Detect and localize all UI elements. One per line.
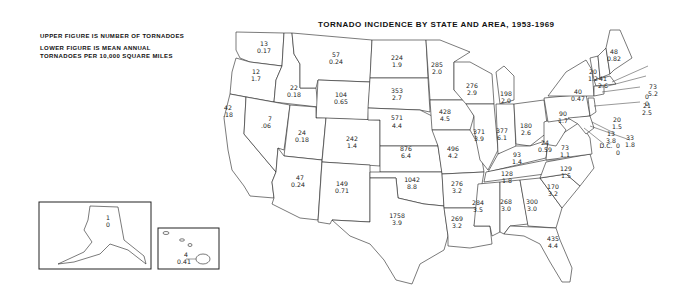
label-ky-count: 93	[513, 151, 521, 158]
label-mo-count: 496	[447, 145, 459, 152]
label-ca-count: 42	[224, 104, 232, 111]
label-mi-rate: 2.0	[501, 97, 511, 104]
label-in-count: 377	[496, 127, 508, 134]
label-il-rate: 3.9	[474, 135, 484, 142]
label-ok-rate: 8.8	[407, 183, 417, 190]
label-ca-rate: .18	[223, 111, 233, 118]
label-oh-count: 180	[520, 122, 532, 129]
label-ma-rate: 5.2	[648, 90, 658, 97]
label-md-count: 33	[626, 134, 634, 141]
label-dc-count: 0	[616, 142, 620, 149]
label-az-rate: 0.24	[291, 181, 305, 188]
label-mi-count: 198	[500, 90, 512, 97]
label-id-count: 22	[290, 84, 298, 91]
label-tx-count: 1758	[389, 212, 405, 219]
label-me-rate: 0.82	[607, 55, 621, 62]
label-hi-count: 4	[184, 251, 188, 258]
label-ia-count: 428	[439, 108, 451, 115]
label-mn-rate: 2.0	[432, 68, 442, 75]
label-me-count: 48	[610, 48, 618, 55]
label-co-rate: 1.4	[347, 142, 357, 149]
label-nm-count: 149	[336, 180, 348, 187]
label-sd-rate: 2.7	[392, 94, 402, 101]
label-nc-rate: 1.5	[561, 172, 571, 179]
label-sd-count: 353	[391, 87, 403, 94]
label-ga-rate: 3.0	[527, 205, 537, 212]
label-wi-count: 276	[466, 82, 478, 89]
label-wa-count: 13	[260, 40, 268, 47]
label-nv-count: 7	[268, 115, 272, 122]
label-ak-rate: 0	[106, 221, 110, 228]
label-fl-rate: 4.4	[548, 242, 558, 249]
label-az-count: 47	[296, 174, 304, 181]
state-fl	[504, 226, 572, 282]
label-co-count: 242	[346, 135, 358, 142]
label-ne-count: 571	[391, 114, 403, 121]
us-map: 13 0.17 12 1.7 42 .18 22 0.18 7 .06 57 0…	[0, 0, 676, 303]
label-ut-count: 24	[298, 129, 306, 136]
label-wy-rate: 0.65	[334, 98, 348, 105]
label-pa-count: 90	[559, 110, 567, 117]
label-wi-rate: 2.9	[467, 89, 477, 96]
label-ri-count: 0	[645, 93, 649, 100]
label-wy-count: 104	[335, 91, 347, 98]
label-ne-rate: 4.4	[392, 122, 402, 129]
label-oh-rate: 2.6	[521, 129, 531, 136]
label-id-rate: 0.18	[287, 91, 301, 98]
label-or-rate: 1.7	[251, 75, 261, 82]
label-vt-count: 20	[589, 68, 597, 75]
label-la-rate: 3.2	[452, 222, 462, 229]
label-ak-count: 1	[106, 214, 110, 221]
label-ma-count: 73	[649, 83, 657, 90]
label-fl-count: 435	[547, 235, 559, 242]
label-wa-rate: 0.17	[257, 47, 271, 54]
label-ny-rate: 0.47	[571, 95, 585, 102]
label-al-rate: 3.0	[501, 205, 511, 212]
label-mt-count: 57	[332, 51, 340, 58]
label-ms-rate: 3.5	[473, 206, 483, 213]
label-mn-count: 285	[431, 61, 443, 68]
label-ok-count: 1042	[404, 176, 420, 183]
label-nc-count: 129	[560, 165, 572, 172]
label-wv-rate: 0.59	[538, 146, 552, 153]
label-ks-rate: 6.4	[401, 152, 411, 159]
label-de-count: 13	[607, 130, 615, 137]
label-in-rate: 6.1	[497, 134, 507, 141]
label-al-count: 268	[500, 198, 512, 205]
label-dc-rate: 0	[616, 149, 620, 156]
label-tn-rate: 1.8	[502, 177, 512, 184]
label-ms-count: 284	[472, 199, 484, 206]
label-vt-rate: 1.2	[588, 75, 598, 82]
state-outlines	[224, 30, 632, 284]
label-sc-count: 170	[547, 183, 559, 190]
label-ky-rate: 1.4	[512, 158, 522, 165]
label-sc-rate: 3.2	[548, 190, 558, 197]
label-nd-count: 224	[391, 54, 403, 61]
label-nd-rate: 1.9	[392, 61, 402, 68]
label-wv-count: 24	[541, 139, 549, 146]
label-dc-name: D.C.	[599, 142, 612, 149]
label-md-rate: 1.8	[625, 141, 635, 148]
label-ut-rate: 0.18	[295, 136, 309, 143]
label-hi-rate: 0.41	[177, 258, 191, 265]
label-mt-rate: 0.24	[329, 58, 343, 65]
label-ar-rate: 3.2	[452, 187, 462, 194]
label-il-count: 371	[473, 128, 485, 135]
label-tx-rate: 3.9	[392, 219, 402, 226]
label-ar-count: 276	[451, 180, 463, 187]
label-nj-count: 20	[613, 116, 621, 123]
label-ct-count: 21	[643, 102, 651, 109]
label-ny-count: 40	[574, 88, 582, 95]
label-nm-rate: 0.71	[335, 187, 349, 194]
label-pa-rate: 1.7	[558, 117, 568, 124]
label-va-rate: 1.1	[560, 151, 570, 158]
label-or-count: 12	[252, 68, 260, 75]
label-nh-rate: 2.6	[598, 82, 608, 89]
label-nj-rate: 1.5	[612, 123, 622, 130]
label-ct-rate: 2.5	[642, 109, 652, 116]
label-ks-count: 876	[400, 145, 412, 152]
label-va-count: 73	[561, 144, 569, 151]
label-nv-rate: .06	[261, 122, 271, 129]
label-ia-rate: 4.5	[440, 115, 450, 122]
label-la-count: 269	[451, 215, 463, 222]
